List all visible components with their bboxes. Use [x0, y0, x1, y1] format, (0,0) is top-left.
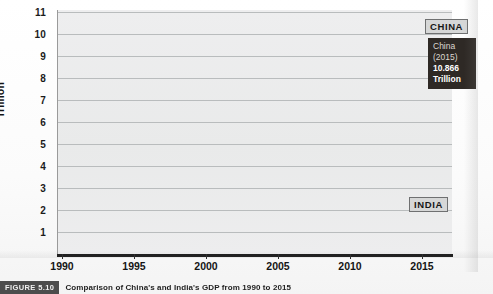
x-tick-label-2005: 2005 — [255, 260, 301, 272]
y-tick-label-5: 5 — [0, 139, 46, 150]
figure-container: Trillion 11 10 9 8 7 6 5 4 3 2 1 — [0, 0, 493, 294]
y-tick-label-11: 11 — [0, 7, 46, 18]
gridline-10 — [58, 34, 452, 35]
gridline-6 — [58, 122, 452, 123]
gridline-7 — [58, 100, 452, 101]
y-tick-label-1: 1 — [0, 227, 46, 238]
y-tick-label-8: 8 — [0, 73, 46, 84]
y-tick-label-6: 6 — [0, 117, 46, 128]
gridline-9 — [58, 56, 452, 57]
chart-card: Trillion 11 10 9 8 7 6 5 4 3 2 1 — [0, 0, 478, 272]
page-bottom-shadow — [0, 250, 493, 258]
y-tick-label-4: 4 — [0, 161, 46, 172]
plot-background — [58, 10, 452, 255]
gridline-5 — [58, 144, 452, 145]
gridline-1 — [58, 232, 452, 233]
y-tick-label-10: 10 — [0, 29, 46, 40]
y-tick-label-7: 7 — [0, 95, 46, 106]
x-tick-label-1995: 1995 — [111, 260, 157, 272]
series-tag-india[interactable]: INDIA — [409, 197, 448, 212]
y-tick-label-9: 9 — [0, 51, 46, 62]
x-tick-label-2000: 2000 — [183, 260, 229, 272]
y-tick-label-2: 2 — [0, 205, 46, 216]
figure-number-badge: FIGURE 5.10 — [0, 281, 59, 294]
figure-caption-text: Comparison of China's and India's GDP fr… — [65, 283, 291, 292]
gridline-2 — [58, 210, 452, 211]
series-tag-china[interactable]: CHINA — [425, 19, 468, 34]
x-tick-label-2015: 2015 — [399, 260, 445, 272]
plot-area — [57, 10, 452, 255]
gridline-11 — [58, 12, 452, 13]
gridline-3 — [58, 188, 452, 189]
gridline-4 — [58, 166, 452, 167]
y-tick-label-3: 3 — [0, 183, 46, 194]
page-edge-shadow — [464, 0, 478, 272]
figure-caption-row: FIGURE 5.10 Comparison of China's and In… — [0, 280, 493, 294]
x-tick-label-2010: 2010 — [327, 260, 373, 272]
x-tick-label-1990: 1990 — [39, 260, 85, 272]
gridline-8 — [58, 78, 452, 79]
